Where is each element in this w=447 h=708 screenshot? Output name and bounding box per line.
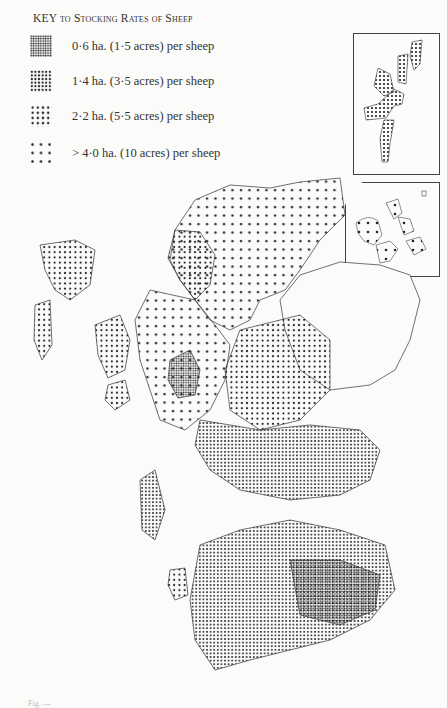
region-grampian-hills [225,315,330,430]
region-kintyre [140,470,165,540]
region-mull [105,380,130,410]
region-skye [95,315,130,378]
region-central [195,420,380,500]
region-lewis-harris [40,240,95,300]
figure-caption: Fig. — [28,699,51,708]
region-arran [168,568,188,600]
region-uists [34,300,52,360]
